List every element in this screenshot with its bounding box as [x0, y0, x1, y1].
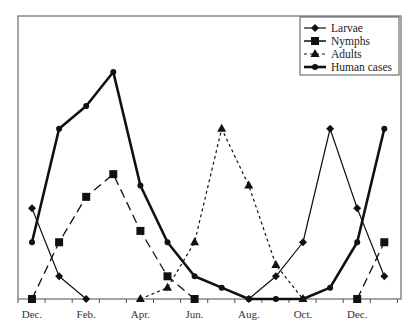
series-line	[32, 208, 86, 299]
data-point-diamond	[28, 204, 36, 212]
data-point-triangle	[217, 124, 226, 132]
data-point-square	[191, 295, 199, 303]
data-point-triangle	[163, 283, 172, 291]
data-point-circle	[56, 126, 62, 132]
legend-label: Human cases	[331, 61, 393, 73]
line-chart: Dec.Feb.Apr.Jun.Aug.Oct.Dec. LarvaeNymph…	[0, 0, 413, 332]
legend-label: Larvae	[331, 22, 363, 34]
data-point-square	[164, 272, 172, 280]
data-point-circle	[137, 183, 143, 189]
data-point-diamond	[353, 204, 361, 212]
x-tick-label: Dec.	[22, 308, 43, 320]
data-point-triangle	[136, 294, 145, 302]
legend-label: Adults	[331, 48, 362, 60]
data-point-circle	[246, 296, 252, 302]
series-larvae	[28, 125, 388, 303]
square-icon	[311, 37, 319, 45]
x-tick-label: Oct.	[294, 308, 313, 320]
data-point-circle	[327, 285, 333, 291]
data-point-triangle	[190, 237, 199, 245]
circle-icon	[312, 64, 318, 70]
data-point-diamond	[380, 272, 388, 280]
data-point-square	[82, 193, 90, 201]
data-point-circle	[192, 273, 198, 279]
data-point-circle	[273, 296, 279, 302]
data-point-circle	[219, 285, 225, 291]
x-tick-label: Aug.	[238, 308, 260, 320]
data-point-circle	[354, 239, 360, 245]
data-point-square	[380, 238, 388, 246]
x-tick-label: Jun.	[186, 308, 204, 320]
x-tick-label: Apr.	[131, 308, 151, 320]
data-point-square	[136, 227, 144, 235]
data-point-circle	[110, 69, 116, 75]
series-line	[357, 242, 384, 299]
chart-legend: LarvaeNymphsAdultsHuman cases	[300, 17, 399, 75]
x-tick-label: Dec.	[347, 308, 368, 320]
data-point-triangle	[244, 181, 253, 189]
data-point-circle	[300, 296, 306, 302]
data-point-circle	[29, 239, 35, 245]
data-point-square	[353, 295, 361, 303]
x-tick-label: Feb.	[77, 308, 97, 320]
data-point-square	[55, 238, 63, 246]
legend-label: Nymphs	[331, 35, 371, 48]
data-point-diamond	[326, 125, 334, 133]
data-point-triangle	[271, 260, 280, 268]
data-point-circle	[381, 126, 387, 132]
series-adults	[136, 124, 308, 302]
data-point-square	[109, 170, 117, 178]
data-point-square	[28, 295, 36, 303]
data-point-circle	[165, 239, 171, 245]
data-point-circle	[83, 103, 89, 109]
